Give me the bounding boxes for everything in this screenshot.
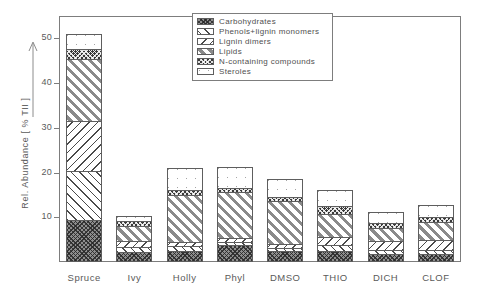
segment-fill-steroles (217, 167, 253, 188)
bar-segment-lipids[interactable] (418, 222, 454, 240)
legend-item[interactable]: Lignin dimers (197, 37, 328, 47)
bar-segment-carb[interactable] (368, 254, 404, 262)
legend-item-label: Lipids (219, 47, 242, 56)
legend-item[interactable]: Phenols+lignin monomers (197, 27, 328, 37)
segment-fill-lipids (167, 195, 203, 242)
bar-segment-lipids[interactable] (317, 214, 353, 237)
legend-swatch-fill (197, 48, 214, 55)
segment-fill-dimers (66, 121, 102, 171)
segment-fill-carb (368, 254, 404, 262)
legend-swatch-fill (197, 38, 214, 45)
y-axis-tick-label: 10 (42, 211, 52, 221)
x-axis: SpruceIvyHollyPhylDMSOTHIODICHCLOF (59, 272, 461, 294)
segment-fill-carb (317, 251, 353, 262)
x-axis-label-holly: Holly (173, 272, 197, 283)
segment-fill-lipids (217, 192, 253, 238)
bar-segment-steroles[interactable] (217, 167, 253, 188)
bar-segment-dimers[interactable] (317, 237, 353, 245)
y-axis-tick-label: 50 (42, 32, 52, 42)
x-axis-label-spruce: Spruce (68, 272, 101, 283)
legend-item-label: Phenols+lignin monomers (219, 27, 319, 36)
bar-segment-dimers[interactable] (66, 121, 102, 171)
bar-segment-carb[interactable] (317, 251, 353, 262)
x-axis-label-dmso: DMSO (270, 272, 301, 283)
bar-dmso[interactable] (267, 179, 303, 262)
bar-segment-phenols[interactable] (66, 171, 102, 220)
x-axis-label-thio: THIO (323, 272, 348, 283)
segment-fill-carb (267, 251, 303, 262)
bar-spruce[interactable] (66, 34, 102, 262)
bar-segment-carb[interactable] (267, 251, 303, 262)
segment-fill-lipids (418, 222, 454, 240)
segment-fill-steroles (317, 190, 353, 206)
bar-segment-steroles[interactable] (66, 34, 102, 49)
segment-fill-lipids (66, 59, 102, 121)
bar-phyl[interactable] (217, 167, 253, 262)
stacked-bar-chart-figure: 1020304050 Rel. Abundance [ % TII ] Spru… (0, 0, 491, 304)
segment-fill-steroles (66, 34, 102, 49)
bar-segment-steroles[interactable] (418, 205, 454, 217)
bar-segment-ncomp[interactable] (317, 206, 353, 214)
legend-item[interactable]: Lipids (197, 47, 328, 57)
bar-segment-lipids[interactable] (217, 192, 253, 238)
segment-fill-lipids (116, 226, 152, 241)
y-axis-tick-label: 20 (42, 167, 52, 177)
carbohydrates-swatch (197, 18, 214, 25)
bar-dich[interactable] (368, 212, 404, 262)
bar-segment-carb[interactable] (217, 245, 253, 262)
legend: CarbohydratesPhenols+lignin monomersLign… (192, 13, 333, 81)
bar-segment-lipids[interactable] (116, 226, 152, 241)
legend-swatch-fill (197, 68, 214, 75)
bar-thio[interactable] (317, 190, 353, 262)
segment-fill-ncomp (317, 206, 353, 214)
segment-fill-steroles (267, 179, 303, 196)
segment-fill-ncomp (66, 49, 102, 59)
lipids-swatch (197, 48, 214, 55)
segment-fill-dimers (418, 240, 454, 250)
bar-segment-lipids[interactable] (368, 228, 404, 241)
legend-item[interactable]: N-containing compounds (197, 57, 328, 67)
legend-item-label: N-containing compounds (219, 57, 315, 66)
legend-item-label: Lignin dimers (219, 37, 271, 46)
bar-segment-dimers[interactable] (418, 240, 454, 250)
x-axis-label-clof: CLOF (422, 272, 449, 283)
legend-item-label: Carbohydrates (219, 17, 276, 26)
bar-segment-steroles[interactable] (267, 179, 303, 196)
bar-segment-dimers[interactable] (368, 241, 404, 249)
y-axis-title: Rel. Abundance [ % TII ] (20, 68, 30, 238)
bar-segment-steroles[interactable] (317, 190, 353, 206)
bar-segment-ncomp[interactable] (66, 49, 102, 59)
legend-item-label: Steroles (219, 67, 251, 76)
x-axis-label-ivy: Ivy (128, 272, 142, 283)
bar-segment-carb[interactable] (116, 252, 152, 262)
bar-segment-lipids[interactable] (167, 195, 203, 242)
bar-segment-steroles[interactable] (368, 212, 404, 223)
segment-fill-steroles (167, 168, 203, 190)
segment-fill-steroles (368, 212, 404, 223)
legend-item[interactable]: Steroles (197, 67, 328, 77)
x-axis-label-phyl: Phyl (225, 272, 245, 283)
segment-fill-phenols (66, 171, 102, 220)
segment-fill-carb (217, 245, 253, 262)
segment-fill-carb (66, 220, 102, 262)
y-axis-tick-label: 40 (42, 77, 52, 87)
bar-ivy[interactable] (116, 216, 152, 262)
bar-segment-carb[interactable] (66, 220, 102, 262)
bar-holly[interactable] (167, 168, 203, 262)
legend-item[interactable]: Carbohydrates (197, 17, 328, 27)
segment-fill-lipids (368, 228, 404, 241)
bar-segment-lipids[interactable] (66, 59, 102, 121)
bar-segment-steroles[interactable] (167, 168, 203, 190)
steroles-swatch (197, 68, 214, 75)
legend-swatch-fill (197, 28, 214, 35)
segment-fill-carb (167, 251, 203, 262)
bar-segment-lipids[interactable] (267, 201, 303, 243)
legend-swatch-fill (197, 18, 214, 25)
bar-clof[interactable] (418, 205, 454, 262)
lignin-dimers-swatch (197, 38, 214, 45)
segment-fill-lipids (317, 214, 353, 237)
bar-segment-carb[interactable] (167, 251, 203, 262)
phenols-lignin-monomers-swatch (197, 28, 214, 35)
legend-swatch-fill (197, 58, 214, 65)
bar-segment-carb[interactable] (418, 254, 454, 262)
